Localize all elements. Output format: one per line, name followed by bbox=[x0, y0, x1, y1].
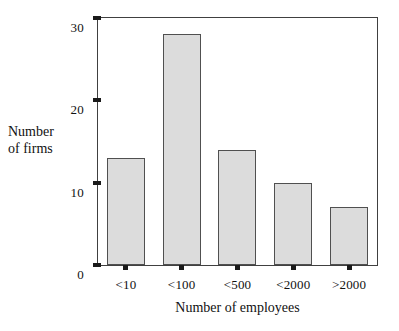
y-tick-mark-30 bbox=[93, 16, 101, 20]
y-tick-mark-10 bbox=[93, 181, 101, 185]
y-tick-label-20: 20 bbox=[44, 103, 84, 116]
bar-lt10 bbox=[107, 158, 145, 265]
bars-area bbox=[98, 18, 377, 265]
y-tick-label-30-wrap: 30 bbox=[40, 21, 84, 35]
bar-slot bbox=[210, 18, 266, 265]
bar-slot bbox=[98, 18, 154, 265]
bar-slot bbox=[265, 18, 321, 265]
x-tick-mark-lt500 bbox=[235, 265, 240, 270]
y-axis-title: Number of firms bbox=[8, 123, 94, 157]
bar-lt100 bbox=[163, 34, 201, 265]
bar-lt2000 bbox=[274, 183, 312, 265]
x-tick-mark-gt2000 bbox=[347, 265, 352, 270]
bar-chart: 30 20 10 0 <10 <100 <500 <2000 >2000 Num… bbox=[0, 0, 399, 331]
y-tick-mark-20 bbox=[93, 98, 101, 102]
bar-gt2000 bbox=[330, 207, 368, 265]
x-tick-mark-lt100 bbox=[179, 265, 184, 270]
x-tick-label-gt2000: >2000 bbox=[314, 277, 384, 292]
bar-lt500 bbox=[218, 150, 256, 265]
x-tick-mark-lt2000 bbox=[291, 265, 296, 270]
y-tick-label-20-wrap: 20 bbox=[40, 103, 84, 117]
x-tick-mark-lt10 bbox=[123, 265, 128, 270]
x-axis-title: Number of employees bbox=[97, 300, 378, 316]
y-tick-label-30: 30 bbox=[44, 21, 84, 34]
y-tick-label-0: 0 bbox=[44, 268, 84, 281]
bar-slot bbox=[154, 18, 210, 265]
y-tick-label-10: 10 bbox=[44, 186, 84, 199]
bar-slot bbox=[321, 18, 377, 265]
y-tick-mark-0 bbox=[93, 263, 101, 267]
y-tick-label-0-wrap: 0 bbox=[40, 268, 84, 282]
y-axis-title-line2: of firms bbox=[8, 140, 94, 157]
y-axis-title-line1: Number bbox=[8, 123, 94, 140]
y-tick-label-10-wrap: 10 bbox=[40, 186, 84, 200]
